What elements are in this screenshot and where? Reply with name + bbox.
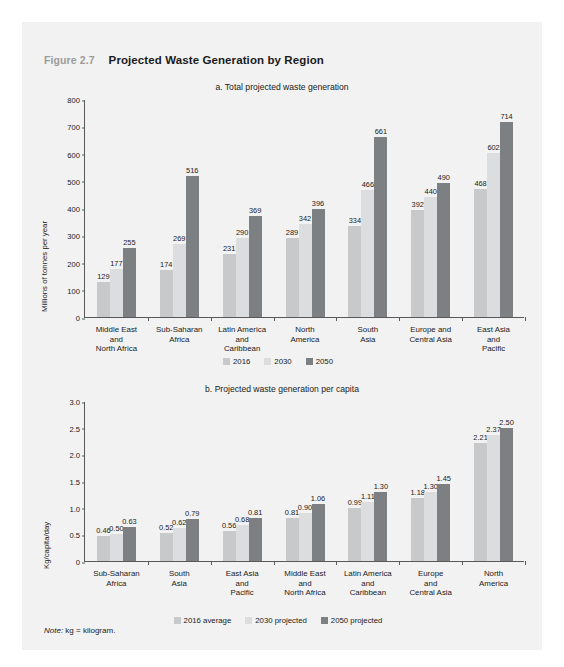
note-text: kg = kilogram. (63, 626, 115, 635)
bar: 1.45 (437, 484, 450, 561)
y-axis-tick: 1.5 (69, 478, 85, 487)
y-axis-tick: 0 (76, 558, 85, 567)
bar-value-label: 516 (186, 166, 198, 175)
bar: 0.99 (348, 508, 361, 561)
bar: 468 (474, 189, 487, 317)
bar: 129 (97, 282, 110, 317)
panel-b-title: b. Projected waste generation per capita (22, 384, 542, 394)
panel-a-total-waste: a. Total projected waste generation Mill… (22, 82, 542, 372)
bar-group: 334466661 (348, 100, 387, 317)
category-label-line: Caribbean (336, 588, 399, 598)
x-axis-tick (211, 317, 212, 321)
bar: 516 (186, 176, 199, 317)
x-axis-category-label: Middle EastandNorth Africa (274, 569, 337, 598)
category-label-line: and (85, 335, 148, 345)
legend-item[interactable]: 2050 projected (321, 616, 383, 625)
bar-value-label: 369 (249, 206, 261, 215)
legend-label: 2050 projected (331, 616, 383, 625)
category-label-line: and (274, 579, 337, 589)
bar-group: 0.991.111.30 (348, 402, 387, 561)
bar: 0.81 (249, 518, 262, 561)
x-axis-category-label: NorthAmerica (274, 325, 337, 344)
x-axis-tick (399, 561, 400, 565)
bar-value-label: 129 (97, 272, 109, 281)
x-axis-category-label: Sub-SaharanAfrica (148, 325, 211, 344)
x-axis-category-label: Latin AmericaandCaribbean (336, 569, 399, 598)
bar-value-label: 466 (362, 180, 374, 189)
legend-swatch (245, 617, 252, 624)
category-label-line: America (274, 335, 337, 345)
y-axis-tick: 500 (67, 177, 85, 186)
x-axis-category-label: Europe andCentral Asia (399, 325, 462, 344)
category-label-line: Europe and (399, 325, 462, 335)
y-axis-tick: 800 (67, 96, 85, 105)
bar-value-label: 0.90 (298, 503, 312, 512)
bar-value-label: 0.81 (248, 508, 262, 517)
bar: 269 (173, 244, 186, 317)
x-axis-tick (336, 561, 337, 565)
legend-swatch (174, 617, 181, 624)
category-label-line: South (148, 569, 211, 579)
x-axis-tick (399, 317, 400, 321)
category-label-line: Sub-Saharan (85, 569, 148, 579)
category-label-line: East Asia (462, 325, 525, 335)
y-axis-tick: 100 (67, 286, 85, 295)
figure-title: Projected Waste Generation by Region (109, 54, 324, 66)
category-label-line: North (462, 569, 525, 579)
bar: 396 (312, 209, 325, 317)
x-axis-tick (462, 561, 463, 565)
category-label-line: Central Asia (399, 335, 462, 345)
category-label-line: Pacific (211, 588, 274, 598)
bar: 714 (500, 122, 513, 317)
panel-b-plot-area: 00.51.01.52.02.53.00.460.500.63Sub-Sahar… (84, 402, 524, 562)
x-axis-tick (274, 561, 275, 565)
bar: 0.79 (186, 519, 199, 561)
legend-swatch (264, 358, 271, 365)
category-label-line: Central Asia (399, 588, 462, 598)
category-label-line: Africa (148, 335, 211, 345)
bar-group: 1.181.301.45 (411, 402, 450, 561)
bar: 661 (374, 137, 387, 317)
x-axis-category-label: Middle EastandNorth Africa (85, 325, 148, 354)
y-axis-tick: 2.5 (69, 424, 85, 433)
bar-group: 174269516 (160, 100, 199, 317)
figure-container: Figure 2.7 Projected Waste Generation by… (22, 22, 542, 650)
bar: 0.81 (286, 518, 299, 561)
bar-group: 0.560.680.81 (223, 402, 262, 561)
bar: 334 (348, 226, 361, 317)
bar-group: 0.810.901.06 (286, 402, 325, 561)
legend-item[interactable]: 2050 (306, 357, 333, 366)
bar-value-label: 342 (299, 214, 311, 223)
category-label-line: North (274, 325, 337, 335)
legend-item[interactable]: 2030 projected (245, 616, 307, 625)
bar: 0.68 (236, 525, 249, 561)
legend-item[interactable]: 2030 (264, 357, 291, 366)
bar: 466 (361, 190, 374, 317)
legend-swatch (321, 617, 328, 624)
note-label: Note: (44, 626, 63, 635)
category-label-line: East Asia (211, 569, 274, 579)
category-label-line: North Africa (274, 588, 337, 598)
category-label-line: and (399, 579, 462, 589)
bar: 2.21 (474, 443, 487, 561)
legend-swatch (223, 358, 230, 365)
bar-value-label: 490 (438, 173, 450, 182)
panel-a-legend: 201620302050 (22, 357, 542, 366)
legend-swatch (306, 358, 313, 365)
category-label-line: and (336, 579, 399, 589)
x-axis-category-label: Sub-SaharanAfrica (85, 569, 148, 588)
x-axis-tick (336, 317, 337, 321)
legend-item[interactable]: 2016 (223, 357, 250, 366)
bar: 392 (411, 210, 424, 317)
category-label-line: Europe (399, 569, 462, 579)
bar-value-label: 440 (425, 187, 437, 196)
bar-value-label: 1.30 (374, 482, 388, 491)
bar: 231 (223, 254, 236, 317)
bar-group: 392440490 (411, 100, 450, 317)
bar-value-label: 392 (412, 200, 424, 209)
bar: 0.56 (223, 531, 236, 561)
legend-label: 2030 projected (255, 616, 307, 625)
bar-group: 2.212.372.50 (474, 402, 513, 561)
legend-item[interactable]: 2016 average (174, 616, 232, 625)
y-axis-tick: 0.5 (69, 531, 85, 540)
